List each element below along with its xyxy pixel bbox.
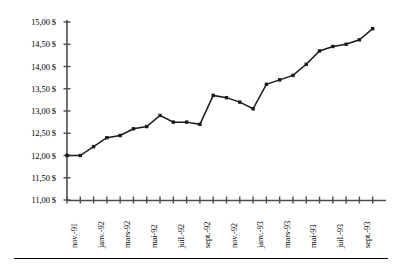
x-axis-tick-label: nov.-91	[70, 223, 79, 248]
x-axis-tick-label: mai-92	[150, 225, 159, 248]
x-axis-tick-label: sept.-93	[363, 222, 372, 248]
x-axis-tick-label: mars-93	[283, 221, 292, 248]
bottom-divider	[14, 258, 388, 259]
x-axis-tick-label: mai-93	[309, 225, 318, 248]
x-axis-tick-label: janv.-93	[256, 221, 265, 248]
x-axis-tick-label: janv.-92	[97, 221, 106, 248]
x-axis-tick-label: juil.-92	[177, 224, 186, 248]
chart-figure: 15,00 $ 14,50 $ 14,00 $ 13,50 $ 13,00 $ …	[0, 0, 402, 271]
x-axis-tick-label: nov.-92	[230, 223, 239, 248]
x-axis-tick-label: juil.-93	[336, 224, 345, 248]
x-axis-tick-label: mars-92	[123, 221, 132, 248]
x-axis-tick-label: sept.-92	[203, 222, 212, 248]
x-axis-tick-labels: nov.-91janv.-92mars-92mai-92juil.-92sept…	[0, 0, 402, 271]
